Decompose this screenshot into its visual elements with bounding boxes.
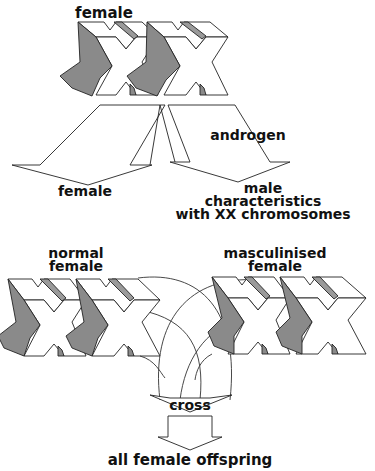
result-arrow — [158, 416, 222, 450]
male-characteristics-line3: with XX chromosomes — [175, 206, 350, 222]
masculinised-female-label-line2: female — [248, 258, 302, 274]
top-female-label: female — [75, 4, 133, 22]
normal-female-xx-chromosomes — [0, 279, 165, 378]
normal-female-label-line2: female — [49, 258, 103, 274]
androgen-label: androgen — [210, 127, 285, 143]
masculinised-female-xx-chromosomes — [195, 277, 366, 380]
left-branch-female-label: female — [58, 183, 112, 199]
all-female-offspring-label: all female offspring — [108, 451, 273, 469]
cross-label: cross — [169, 397, 211, 413]
split-arrows — [12, 105, 290, 185]
top-xx-chromosomes — [60, 22, 228, 96]
sex-reversal-diagram: female androgen female male characterist… — [0, 0, 375, 471]
